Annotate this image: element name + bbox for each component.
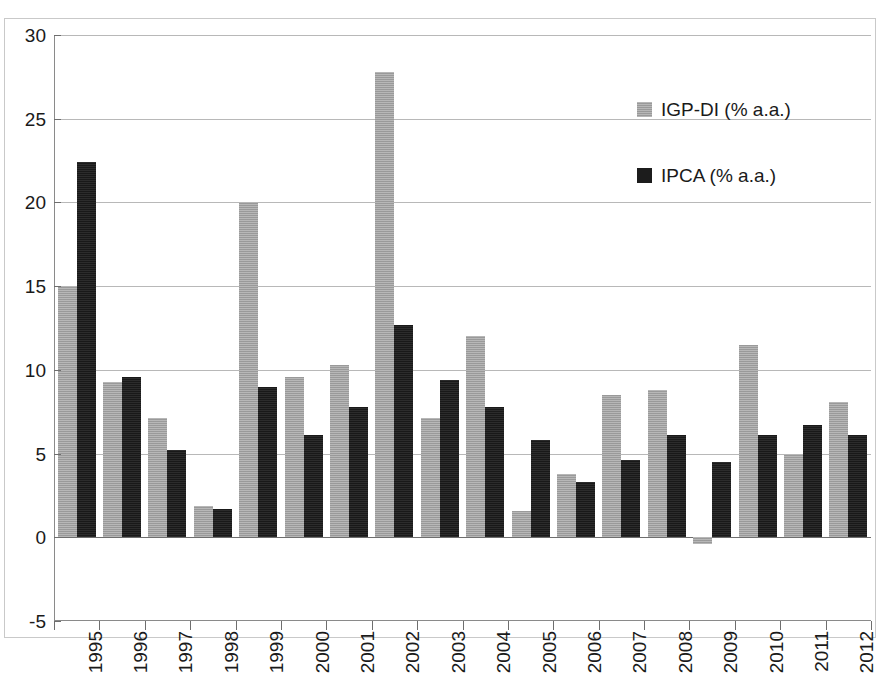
bar-igp-di-2012 bbox=[829, 402, 848, 538]
y-tick-mark-25 bbox=[54, 119, 61, 120]
x-tick-mark bbox=[826, 621, 827, 630]
y-tick-label-5: 5 bbox=[4, 445, 46, 464]
y-tick-mark-5 bbox=[54, 454, 61, 455]
bar-group bbox=[281, 35, 326, 621]
bar-igp-di-1998 bbox=[194, 506, 213, 538]
x-tick-label-2008: 2008 bbox=[676, 631, 695, 673]
bar-group bbox=[236, 35, 281, 621]
bar-ipca-2010 bbox=[758, 435, 777, 537]
x-tick-label-1995: 1995 bbox=[86, 631, 105, 673]
x-tick-label-1998: 1998 bbox=[222, 631, 241, 673]
x-tick-label-1996: 1996 bbox=[131, 631, 150, 673]
x-tick-label-2010: 2010 bbox=[767, 631, 786, 673]
bar-ipca-2004 bbox=[485, 407, 504, 538]
y-axis-tick-labels: 302520151050-5 bbox=[0, 35, 46, 621]
legend-item-ipca: IPCA (% a.a.) bbox=[637, 164, 847, 186]
bar-ipca-2012 bbox=[848, 435, 867, 537]
bar-ipca-2000 bbox=[304, 435, 323, 537]
x-tick-label-1999: 1999 bbox=[267, 631, 286, 673]
bar-ipca-2007 bbox=[621, 460, 640, 537]
y-tick-mark-0 bbox=[54, 537, 61, 538]
x-tick-label-2004: 2004 bbox=[494, 631, 513, 673]
x-tick-label-1997: 1997 bbox=[176, 631, 195, 673]
x-tick-mark bbox=[281, 621, 282, 630]
bar-igp-di-2001 bbox=[330, 365, 349, 537]
x-tick-label-2006: 2006 bbox=[585, 631, 604, 673]
bar-igp-di-1997 bbox=[148, 418, 167, 537]
bar-group bbox=[463, 35, 508, 621]
y-tick-label-0: 0 bbox=[4, 528, 46, 547]
x-tick-label-2005: 2005 bbox=[540, 631, 559, 673]
bar-group bbox=[54, 35, 99, 621]
x-tick-mark bbox=[780, 621, 781, 630]
bar-group bbox=[417, 35, 462, 621]
x-tick-label-2002: 2002 bbox=[403, 631, 422, 673]
x-tick-mark bbox=[99, 621, 100, 630]
bar-igp-di-2009 bbox=[693, 537, 712, 544]
bar-igp-di-2003 bbox=[421, 418, 440, 537]
bar-group bbox=[372, 35, 417, 621]
x-tick-mark bbox=[236, 621, 237, 630]
y-tick-mark-10 bbox=[54, 370, 61, 371]
x-tick-mark bbox=[871, 621, 872, 630]
x-tick-mark bbox=[190, 621, 191, 630]
y-tick-mark-30 bbox=[54, 35, 61, 36]
bar-igp-di-2011 bbox=[784, 455, 803, 537]
bar-igp-di-1996 bbox=[103, 382, 122, 538]
bar-ipca-1996 bbox=[122, 377, 141, 538]
bar-ipca-1999 bbox=[258, 387, 277, 538]
x-tick-label-2012: 2012 bbox=[857, 631, 876, 673]
bar-igp-di-2007 bbox=[602, 395, 621, 537]
y-tick-label-20: 20 bbox=[4, 193, 46, 212]
legend-item-igp-di: IGP-DI (% a.a.) bbox=[637, 98, 847, 120]
bar-ipca-2003 bbox=[440, 380, 459, 537]
x-tick-mark bbox=[372, 621, 373, 630]
bar-ipca-2011 bbox=[803, 425, 822, 537]
bar-ipca-2002 bbox=[394, 325, 413, 538]
x-tick-label-2001: 2001 bbox=[358, 631, 377, 673]
bar-igp-di-2008 bbox=[648, 390, 667, 537]
x-tick-mark bbox=[463, 621, 464, 630]
bar-igp-di-2010 bbox=[739, 345, 758, 538]
legend-label-igp-di: IGP-DI (% a.a.) bbox=[661, 100, 791, 119]
y-tick-mark-15 bbox=[54, 286, 61, 287]
bar-ipca-2001 bbox=[349, 407, 368, 538]
x-tick-label-2011: 2011 bbox=[812, 631, 831, 672]
bar-igp-di-2002 bbox=[375, 72, 394, 537]
bar-igp-di-2000 bbox=[285, 377, 304, 538]
x-tick-mark bbox=[644, 621, 645, 630]
bar-group bbox=[508, 35, 553, 621]
bar-ipca-2005 bbox=[531, 440, 550, 537]
bar-ipca-2009 bbox=[712, 462, 731, 537]
legend-label-ipca: IPCA (% a.a.) bbox=[661, 166, 776, 185]
x-tick-mark bbox=[508, 621, 509, 630]
x-tick-mark bbox=[145, 621, 146, 630]
bar-igp-di-2005 bbox=[512, 511, 531, 538]
legend-swatch-igp-di-icon bbox=[637, 102, 652, 117]
y-tick-mark-20 bbox=[54, 202, 61, 203]
x-tick-label-2003: 2003 bbox=[449, 631, 468, 673]
bar-igp-di-2004 bbox=[466, 336, 485, 537]
chart-legend: IGP-DI (% a.a.) IPCA (% a.a.) bbox=[637, 98, 847, 230]
x-tick-mark bbox=[599, 621, 600, 630]
bar-group bbox=[326, 35, 371, 621]
x-tick-label-2000: 2000 bbox=[313, 631, 332, 673]
bar-ipca-2008 bbox=[667, 435, 686, 537]
bar-ipca-1995 bbox=[77, 162, 96, 537]
bar-ipca-1997 bbox=[167, 450, 186, 537]
legend-swatch-ipca-icon bbox=[637, 168, 652, 183]
bar-ipca-1998 bbox=[213, 509, 232, 537]
x-tick-label-2009: 2009 bbox=[721, 631, 740, 673]
y-tick-label-30: 30 bbox=[4, 26, 46, 45]
bar-group bbox=[145, 35, 190, 621]
x-tick-mark bbox=[54, 621, 55, 630]
x-tick-mark bbox=[735, 621, 736, 630]
y-tick-label-10: 10 bbox=[4, 361, 46, 380]
x-tick-label-2007: 2007 bbox=[630, 631, 649, 673]
bar-igp-di-1995 bbox=[58, 286, 77, 537]
x-tick-mark bbox=[326, 621, 327, 630]
y-tick-label--5: -5 bbox=[4, 612, 46, 631]
y-tick-mark--5 bbox=[54, 621, 61, 622]
bar-ipca-2006 bbox=[576, 482, 595, 537]
